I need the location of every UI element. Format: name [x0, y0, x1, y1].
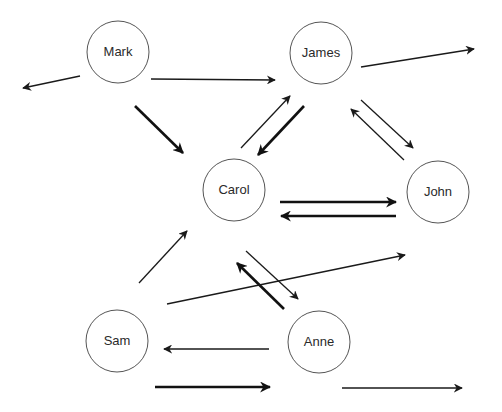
arrow-sam-to-carol — [139, 231, 187, 283]
node-john: John — [407, 161, 469, 223]
node-label: John — [424, 184, 452, 199]
arrow-anne-to-carol — [237, 263, 284, 309]
node-mark: Mark — [87, 21, 149, 83]
arrow-james-to-outside-right — [361, 49, 474, 67]
node-label: James — [302, 45, 341, 60]
arrow-sam-to-outside-right — [167, 255, 405, 304]
arrow-james-to-carol — [258, 106, 304, 155]
nodes-layer: MarkJamesCarolJohnSamAnne — [86, 21, 469, 373]
node-sam: Sam — [86, 310, 148, 372]
network-diagram: MarkJamesCarolJohnSamAnne — [0, 0, 502, 412]
arrow-mark-to-james — [151, 79, 275, 80]
node-label: Carol — [218, 182, 249, 197]
arrow-carol-to-anne — [246, 251, 298, 299]
arrow-john-to-james — [351, 109, 404, 160]
node-anne: Anne — [288, 311, 350, 373]
arrow-carol-to-james — [241, 96, 290, 148]
node-label: Anne — [304, 334, 334, 349]
node-label: Mark — [104, 44, 133, 59]
node-label: Sam — [104, 333, 131, 348]
node-james: James — [290, 22, 352, 84]
node-carol: Carol — [203, 159, 265, 221]
arrow-mark-to-carol — [135, 106, 183, 153]
arrow-mark-to-outside-left — [23, 76, 80, 88]
arrow-james-to-john — [361, 100, 413, 148]
